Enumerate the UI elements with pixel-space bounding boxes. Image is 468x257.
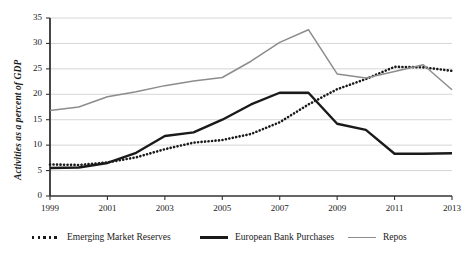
y-tick-label: 35 <box>20 12 42 22</box>
legend-swatch-solid-gray-icon <box>348 237 376 239</box>
line-chart-canvas <box>0 0 468 257</box>
x-tick-label: 2011 <box>375 203 415 213</box>
y-tick-label: 20 <box>20 88 42 98</box>
legend-item-emerging-market-reserves: Emerging Market Reserves <box>32 230 171 244</box>
axes-group <box>50 18 452 196</box>
legend-item-repos: Repos <box>348 230 407 244</box>
x-tick-label: 2013 <box>432 203 468 213</box>
y-tick-label: 25 <box>20 63 42 73</box>
legend-swatch-solid-thick-icon <box>200 236 228 238</box>
legend-label-emerging-market-reserves: Emerging Market Reserves <box>67 232 171 242</box>
x-tick-label: 1999 <box>30 203 70 213</box>
chart-figure: Activities as a percent of GDP 051015202… <box>0 0 468 257</box>
y-tick-label: 10 <box>20 139 42 149</box>
legend-swatch-dotted-icon <box>32 236 60 239</box>
y-tick-label: 15 <box>20 114 42 124</box>
series-line-repos <box>50 30 452 111</box>
x-tick-label: 2001 <box>87 203 127 213</box>
x-tick-label: 2009 <box>317 203 357 213</box>
legend-label-repos: Repos <box>383 232 407 242</box>
series-line-european-bank-purchases <box>50 93 452 168</box>
tick-marks-group <box>46 18 452 200</box>
y-tick-label: 30 <box>20 37 42 47</box>
gridlines-group <box>50 18 452 171</box>
chart-legend: Emerging Market Reserves European Bank P… <box>0 228 468 250</box>
x-tick-label: 2007 <box>260 203 300 213</box>
x-tick-label: 2005 <box>202 203 242 213</box>
y-tick-label: 0 <box>20 190 42 200</box>
y-tick-label: 5 <box>20 165 42 175</box>
legend-item-european-bank-purchases: European Bank Purchases <box>200 230 334 244</box>
data-series-group <box>50 30 452 168</box>
x-tick-label: 2003 <box>145 203 185 213</box>
legend-label-european-bank-purchases: European Bank Purchases <box>235 232 334 242</box>
